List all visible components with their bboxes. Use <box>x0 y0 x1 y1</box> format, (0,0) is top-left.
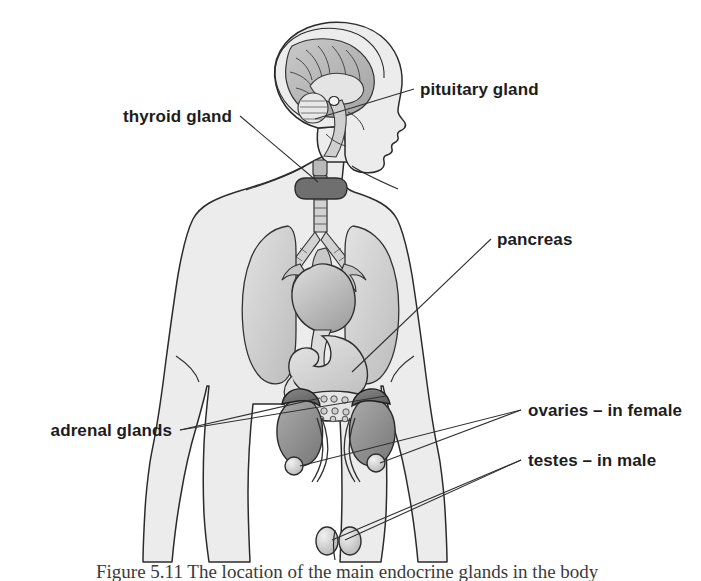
label-pituitary-gland: pituitary gland <box>420 80 539 99</box>
pituitary-gland-organ <box>329 97 339 106</box>
thyroid-gland-organ <box>295 178 347 199</box>
label-thyroid-gland: thyroid gland <box>123 107 232 126</box>
larynx <box>313 160 327 176</box>
testis-right <box>339 527 361 555</box>
ovary-right <box>367 454 385 472</box>
label-ovaries: ovaries – in female <box>528 401 682 420</box>
label-adrenal-glands: adrenal glands <box>51 421 172 440</box>
label-testes: testes – in male <box>528 451 656 470</box>
endocrine-diagram-figure: pituitary gland thyroid gland pancreas a… <box>0 0 701 581</box>
cerebellum <box>298 93 328 123</box>
figure-caption: Figure 5.11 The location of the main end… <box>96 561 599 581</box>
label-pancreas: pancreas <box>497 230 572 249</box>
anatomy-illustration: pituitary gland thyroid gland pancreas a… <box>0 0 701 581</box>
